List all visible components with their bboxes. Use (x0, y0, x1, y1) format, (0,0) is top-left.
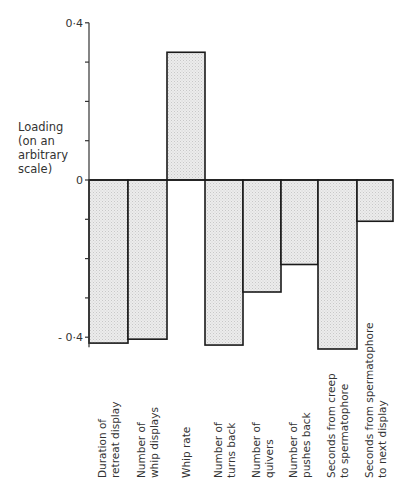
bars-group (89, 52, 393, 349)
bar (357, 180, 393, 221)
category-label: Seconds from spermatophore (363, 323, 375, 478)
bar (89, 180, 128, 343)
category-label: Number of (135, 422, 147, 478)
category-label: Seconds from creep (325, 373, 337, 478)
y-axis: 0·40- 0·4 (58, 17, 89, 347)
category-label: Number of (287, 422, 299, 478)
category-label: Number of (250, 422, 262, 478)
category-label: Number of (212, 422, 224, 478)
category-label: whip displays (148, 407, 160, 478)
category-label: Whip rate (180, 427, 192, 478)
y-tick-label: 0 (76, 174, 83, 187)
bar (128, 180, 167, 339)
bar (167, 52, 205, 180)
category-label: pushes back (300, 411, 312, 478)
bar (243, 180, 281, 292)
y-axis-title-line: (on an (18, 134, 68, 148)
y-axis-title-line: arbitrary (18, 148, 68, 162)
y-tick-label: - 0·4 (58, 331, 83, 344)
category-label: turns back (225, 422, 237, 478)
y-tick-label: 0·4 (66, 17, 84, 30)
bar (318, 180, 357, 349)
category-label: to next display (376, 400, 388, 478)
category-label: retreat display (109, 402, 121, 478)
bar (281, 180, 318, 264)
category-label: to spermatophore (338, 384, 350, 478)
bar (205, 180, 243, 345)
y-axis-title-line: Loading (18, 120, 68, 134)
y-axis-title: Loading(on anarbitraryscale) (18, 120, 68, 176)
y-axis-title-line: scale) (18, 162, 68, 176)
category-label: Duration of (96, 419, 108, 478)
category-label: quivers (263, 439, 275, 478)
bar-chart: 0·40- 0·4 Duration ofretreat displayNumb… (0, 0, 408, 496)
